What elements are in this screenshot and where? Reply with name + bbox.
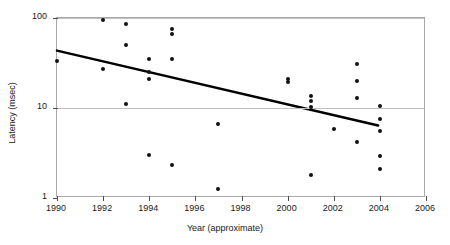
data-point [101,18,105,22]
x-tick-mark [57,196,58,201]
x-axis-tick-labels: 199019921994199619982000200220042006 [0,203,450,217]
y-gridline [57,18,424,19]
data-point [101,67,105,71]
data-point [378,154,382,158]
data-point [378,129,382,133]
data-point [309,173,313,177]
data-point [170,57,174,61]
data-point [378,167,382,171]
data-point [55,59,59,63]
x-tick-label: 1996 [184,203,204,213]
data-point [355,140,359,144]
x-tick-mark [288,196,289,201]
data-point [170,27,174,31]
data-point [147,153,151,157]
y-axis-title: Latency (msec) [7,53,17,173]
data-point [286,80,290,84]
data-point [378,117,382,121]
x-tick-label: 1990 [46,203,66,213]
x-tick-label: 1998 [230,203,250,213]
data-point [309,99,313,103]
x-tick-mark [242,196,243,201]
data-point [124,43,128,47]
x-tick-mark [103,196,104,201]
x-tick-mark [426,196,427,201]
trendline [57,18,424,196]
x-tick-label: 1992 [92,203,112,213]
data-point [124,22,128,26]
data-point [309,105,313,109]
x-tick-label: 2004 [369,203,389,213]
x-tick-label: 2000 [277,203,297,213]
data-point [309,94,313,98]
data-point [147,57,151,61]
data-point [332,127,336,131]
scatter-chart: 110100 199019921994199619982000200220042… [0,0,450,245]
y-tick-label: 1 [42,192,47,201]
x-tick-label: 1994 [138,203,158,213]
x-tick-mark [195,196,196,201]
x-axis-title: Year (approximate) [0,223,450,233]
y-gridline [57,108,424,109]
data-point [147,77,151,81]
x-tick-label: 2006 [415,203,435,213]
data-point [378,104,382,108]
plot-area [56,17,425,197]
y-tick-mark [53,18,58,19]
data-point [355,62,359,66]
y-tick-label: 100 [32,12,47,21]
y-tick-label: 10 [37,102,47,111]
data-point [355,79,359,83]
data-point [216,187,220,191]
data-point [124,102,128,106]
x-tick-mark [149,196,150,201]
x-tick-mark [380,196,381,201]
data-point [147,70,151,74]
data-point [170,163,174,167]
data-point [170,32,174,36]
data-point [355,96,359,100]
x-tick-label: 2002 [323,203,343,213]
data-point [216,122,220,126]
y-tick-mark [53,108,58,109]
x-tick-mark [334,196,335,201]
